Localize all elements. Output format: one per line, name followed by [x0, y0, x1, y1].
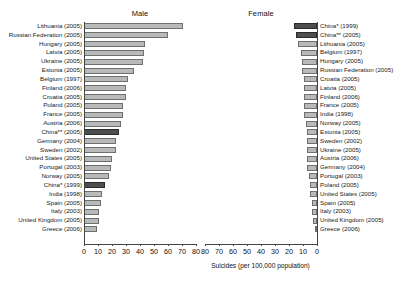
male-bar [84, 165, 111, 171]
male-bar [84, 59, 143, 65]
female-bar-track [205, 128, 317, 137]
male-bar [84, 68, 134, 74]
male-bar [84, 129, 119, 135]
male-category-label: Croatia (2005) [42, 93, 82, 102]
bar-row: Hungary (2005)Lithuania (2005) [0, 40, 409, 49]
female-category-label: Estonia (2005) [320, 128, 360, 137]
female-bar-track [205, 172, 317, 181]
female-category-label: Norway (2005) [320, 119, 361, 128]
male-bar-track [84, 110, 196, 119]
male-bar-track [84, 172, 196, 181]
female-x-tick [289, 244, 290, 247]
male-bar-track [84, 154, 196, 163]
male-category-label: Poland (2005) [43, 101, 82, 110]
female-bar-track [205, 146, 317, 155]
male-bar [84, 173, 109, 179]
female-bar-track [205, 207, 317, 216]
female-category-label: Russian Federation (2005) [320, 66, 393, 75]
female-bar [304, 112, 317, 118]
female-bar [310, 182, 317, 188]
female-x-tick-label: 0 [307, 247, 327, 256]
male-x-tick [140, 244, 141, 247]
male-bar-track [84, 207, 196, 216]
male-category-label: Spain (2005) [47, 199, 82, 208]
male-x-tick [154, 244, 155, 247]
female-bar [304, 76, 317, 82]
female-bar [304, 103, 317, 109]
male-category-label: Lithuania (2005) [37, 22, 82, 31]
female-bar-track [205, 154, 317, 163]
male-x-tick [98, 244, 99, 247]
male-bar-track [84, 146, 196, 155]
bar-row: China* (1999)Poland (2005) [0, 181, 409, 190]
male-category-label: Portugal (2003) [39, 163, 82, 172]
male-value-axis [84, 22, 85, 244]
x-axis-label: Suicides (per 100,000 population) [0, 262, 409, 269]
male-category-label: Austria (2006) [43, 119, 82, 128]
female-category-label: Ukraine (2005) [320, 146, 361, 155]
male-category-label: United Kingdom (2005) [18, 216, 82, 225]
male-bar [84, 85, 126, 91]
female-bar-track [205, 101, 317, 110]
bar-row: Spain (2005)Spain (2005) [0, 199, 409, 208]
female-category-label: Portugal (2003) [320, 172, 363, 181]
female-bar-track [205, 110, 317, 119]
female-category-label: Germany (2004) [320, 163, 365, 172]
male-category-label: Russian Federation (2005) [9, 31, 82, 40]
bar-row: Norway (2005)Portugal (2003) [0, 172, 409, 181]
female-bar [304, 85, 317, 91]
bar-row: India (1998)United States (2005) [0, 190, 409, 199]
female-bar-track [205, 75, 317, 84]
female-bar [307, 129, 318, 135]
male-category-label: Ukraine (2005) [41, 57, 82, 66]
bar-row: Italy (2003)Italy (2003) [0, 207, 409, 216]
male-category-label: China** (2005) [41, 128, 82, 137]
male-bar [84, 191, 102, 197]
female-category-label: Finland (2006) [320, 93, 360, 102]
male-x-tick [196, 244, 197, 247]
male-category-label: Latvia (2005) [46, 48, 82, 57]
male-bar-track [84, 190, 196, 199]
female-bar [310, 191, 317, 197]
female-x-tick [261, 244, 262, 247]
female-bar [296, 32, 317, 38]
female-bar-track [205, 84, 317, 93]
female-category-label: Croatia (2005) [320, 75, 360, 84]
male-bar [84, 94, 126, 100]
male-bar [84, 41, 145, 47]
male-bar [84, 182, 105, 188]
male-bar [84, 200, 101, 206]
male-bar [84, 138, 116, 144]
female-bar [301, 50, 317, 56]
male-category-label: Greece (2006) [42, 225, 82, 234]
male-bar [84, 147, 116, 153]
female-bar [307, 138, 318, 144]
female-category-label: Poland (2005) [320, 181, 359, 190]
bar-row: Croatia (2005)Finland (2006) [0, 93, 409, 102]
female-bar-track [205, 40, 317, 49]
bar-row: France (2005)India (1998) [0, 110, 409, 119]
male-bar-track [84, 101, 196, 110]
bar-row: Latvia (2005)Belgium (1997) [0, 48, 409, 57]
female-category-label: Spain (2005) [320, 199, 355, 208]
male-bar [84, 76, 128, 82]
female-bar [307, 156, 317, 162]
bar-row: Estonia (2005)Russian Federation (2005) [0, 66, 409, 75]
male-bar-track [84, 66, 196, 75]
female-category-label: China* (1999) [320, 22, 358, 31]
male-bar-track [84, 137, 196, 146]
female-bar-track [205, 93, 317, 102]
female-bar-track [205, 137, 317, 146]
male-x-tick [84, 244, 85, 247]
back-to-back-bar-chart: Male Female Lithuania (2005)China* (1999… [0, 0, 409, 286]
bar-row: Ukraine (2005)Hungary (2005) [0, 57, 409, 66]
female-bar [309, 173, 317, 179]
male-category-label: Finland (2006) [42, 84, 82, 93]
male-bar [84, 226, 97, 232]
female-bar-track [205, 181, 317, 190]
male-bar-track [84, 163, 196, 172]
male-bar [84, 209, 99, 215]
male-x-tick [168, 244, 169, 247]
male-category-label: Estonia (2005) [42, 66, 82, 75]
bar-row: Russian Federation (2005)China** (2005) [0, 31, 409, 40]
